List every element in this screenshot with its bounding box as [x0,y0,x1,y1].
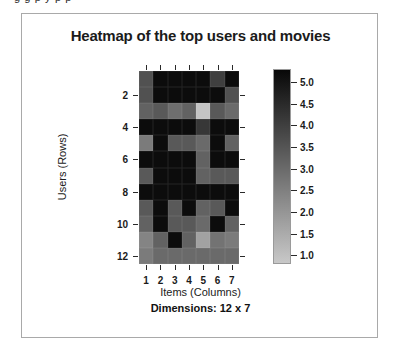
colorbar-tick-label: 4.5 [300,98,314,109]
heatmap-cell [210,151,224,167]
colorbar-tick [291,190,297,191]
colorbar-gradient [273,69,291,264]
heatmap-cell [225,232,239,248]
x-axis-tick [189,65,190,70]
heatmap-cell [196,184,210,200]
x-axis-title: Items (Columns) [22,286,379,298]
y-axis-tick-label: 2 [122,90,128,101]
heatmap-cell [225,87,239,103]
heatmap-cell [139,87,153,103]
x-axis-tick [175,65,176,70]
y-axis-tick-label: 4 [122,122,128,133]
x-axis-tick-label: 2 [158,275,164,286]
colorbar-tick [291,104,297,105]
heatmap-cell [153,71,167,87]
heatmap-cell [153,87,167,103]
y-axis-tick [133,95,138,96]
y-axis-tick [133,256,138,257]
heatmap-cell [168,216,182,232]
heatmap-cell [168,200,182,216]
x-axis-tick [160,265,161,270]
heatmap-cell [182,248,196,264]
x-axis-tick [146,265,147,270]
heatmap-cell [182,232,196,248]
heatmap-cell [196,87,210,103]
heatmap-cell [182,151,196,167]
x-axis-tick [218,65,219,70]
y-axis-tick [133,192,138,193]
y-axis-title: Users (Rows) [56,134,68,201]
heatmap-cell [182,216,196,232]
heatmap-cell [139,216,153,232]
heatmap-cell [225,168,239,184]
heatmap-cell [153,151,167,167]
heatmap-cell [153,232,167,248]
heatmap-cell [182,168,196,184]
x-axis-tick [189,265,190,270]
heatmap-cell [139,184,153,200]
heatmap-cell [210,87,224,103]
heatmap-cell [210,248,224,264]
heatmap-cell [196,168,210,184]
y-axis-tick [240,95,245,96]
heatmap-cell [168,103,182,119]
heatmap-cell [225,200,239,216]
x-axis-tick-label: 6 [215,275,221,286]
heatmap-cell [210,103,224,119]
x-axis-tick [175,265,176,270]
heatmap-cell [225,184,239,200]
x-axis-tick [203,265,204,270]
heatmap-grid [139,71,239,264]
clipped-document-text: g g p y p p [0,0,404,12]
heatmap-cell [196,216,210,232]
colorbar: 5.04.54.03.53.02.52.01.51.0 [273,69,291,264]
x-axis-tick-label: 1 [143,275,149,286]
heatmap-cell [168,87,182,103]
heatmap-cell [182,119,196,135]
y-axis-tick-label: 10 [117,218,128,229]
y-axis-tick [240,192,245,193]
heatmap-cell [139,200,153,216]
heatmap-cell [210,168,224,184]
heatmap-cell [225,135,239,151]
heatmap-panel: 123456724681012 [139,71,239,264]
y-axis-tick [240,127,245,128]
y-axis-tick [240,159,245,160]
colorbar-tick-label: 4.0 [300,120,314,131]
heatmap-cell [153,119,167,135]
heatmap-cell [153,103,167,119]
heatmap-cell [196,135,210,151]
heatmap-cell [196,232,210,248]
y-axis-tick-label: 6 [122,154,128,165]
y-axis-tick-label: 12 [117,250,128,261]
heatmap-cell [225,216,239,232]
heatmap-cell [182,135,196,151]
heatmap-cell [210,200,224,216]
colorbar-tick-label: 3.5 [300,142,314,153]
heatmap-cell [182,200,196,216]
heatmap-cell [139,103,153,119]
heatmap-cell [210,232,224,248]
heatmap-cell [210,119,224,135]
heatmap-cell [196,151,210,167]
colorbar-tick [291,169,297,170]
heatmap-cell [225,151,239,167]
heatmap-cell [196,119,210,135]
x-axis-tick [218,265,219,270]
heatmap-cell [225,119,239,135]
y-axis-tick [240,224,245,225]
heatmap-cell [168,119,182,135]
x-axis-tick [146,65,147,70]
heatmap-cell [139,248,153,264]
heatmap-cell [139,119,153,135]
heatmap-cell [210,184,224,200]
heatmap-cell [196,248,210,264]
heatmap-cell [168,168,182,184]
x-axis-tick-label: 5 [201,275,207,286]
heatmap-cell [153,135,167,151]
heatmap-cell [210,216,224,232]
x-axis-tick [232,265,233,270]
x-axis-tick [160,65,161,70]
clipped-text-line: g g p y p p [14,0,72,3]
heatmap-cell [153,168,167,184]
